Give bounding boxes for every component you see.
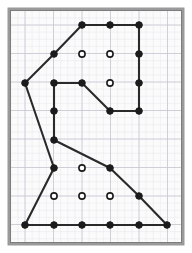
- boundary-dot: [22, 80, 29, 87]
- interior-dot: [79, 193, 85, 199]
- boundary-dot: [107, 222, 114, 229]
- boundary-dot: [51, 80, 58, 87]
- interior-dot: [79, 51, 85, 57]
- boundary-dot: [136, 222, 143, 229]
- interior-dot: [51, 193, 57, 199]
- boundary-dot: [136, 108, 143, 115]
- boundary-dot: [51, 165, 58, 172]
- boundary-dot: [107, 22, 114, 29]
- boundary-dot: [136, 51, 143, 58]
- boundary-dot: [22, 222, 29, 229]
- boundary-dot: [51, 108, 58, 115]
- interior-dot: [79, 165, 85, 171]
- dot-grid-polygon-figure: [0, 0, 192, 253]
- interior-dot: [107, 51, 113, 57]
- boundary-dot: [51, 51, 58, 58]
- interior-dot: [107, 193, 113, 199]
- figure-container: [0, 0, 192, 253]
- boundary-dot: [79, 80, 86, 87]
- boundary-dot: [79, 222, 86, 229]
- interior-dot: [107, 80, 113, 86]
- boundary-dot: [51, 137, 58, 144]
- boundary-dot: [164, 222, 171, 229]
- boundary-dot: [136, 193, 143, 200]
- boundary-dot: [107, 165, 114, 172]
- boundary-dot: [136, 22, 143, 29]
- boundary-dot: [136, 80, 143, 87]
- boundary-dot: [107, 108, 114, 115]
- boundary-dot: [79, 22, 86, 29]
- boundary-dot: [51, 222, 58, 229]
